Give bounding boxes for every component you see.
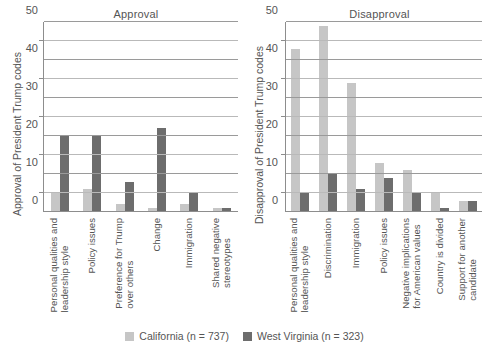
x-label-group: Country is divided xyxy=(425,214,453,320)
bar-west-virginia xyxy=(328,174,337,212)
x-tick-label: Country is divided xyxy=(434,218,445,294)
gridline-minor xyxy=(44,116,238,117)
y-tick-label: 40 xyxy=(8,42,38,54)
panel-disapproval-x-labels: Personal qualities andleadership styleDi… xyxy=(285,214,481,320)
x-tick-label: Discrimination xyxy=(322,218,333,278)
y-tick-mark xyxy=(281,116,285,117)
x-label-group: Policy issues xyxy=(75,214,107,320)
bar-group xyxy=(76,22,108,212)
x-tick-label: Personal qualities andleadership style xyxy=(48,218,70,312)
gridline-major xyxy=(286,21,482,22)
chart-figure: Approval Approval of President Trump cod… xyxy=(0,0,489,351)
x-label-group: Discrimination xyxy=(313,214,341,320)
bar-west-virginia xyxy=(125,182,134,212)
x-label-group: Policy issues xyxy=(369,214,397,320)
gridline-minor xyxy=(44,154,238,155)
gridline-minor xyxy=(286,154,482,155)
bar-group xyxy=(454,22,482,212)
y-tick-mark xyxy=(281,192,285,193)
bar-group xyxy=(314,22,342,212)
y-tick-label: 50 xyxy=(8,4,38,16)
bar-group xyxy=(141,22,173,212)
x-tick-label: Personal qualities andleadership style xyxy=(288,218,310,312)
y-tick-mark xyxy=(39,192,43,193)
panel-approval-plot-area: 01020304050 xyxy=(43,22,238,212)
gridline-major xyxy=(44,59,238,60)
gridline-major xyxy=(286,211,482,212)
legend-swatch xyxy=(243,332,252,341)
gridline-major xyxy=(44,135,238,136)
bar-west-virginia xyxy=(189,193,198,212)
legend-item: West Virginia (n = 323) xyxy=(243,330,364,342)
x-tick-label: Support for anothercandidate xyxy=(456,218,478,301)
y-tick-mark xyxy=(39,78,43,79)
y-tick-label: 30 xyxy=(8,80,38,92)
x-tick-label: Immigration xyxy=(350,218,361,268)
gridline-major xyxy=(44,173,238,174)
panel-disapproval-bars xyxy=(286,22,482,212)
panel-approval-y-axis-title: Approval of President Trump codes xyxy=(11,52,23,216)
y-tick-label: 0 xyxy=(248,194,278,206)
bar-west-virginia xyxy=(60,136,69,212)
bar-california xyxy=(51,193,60,212)
x-label-group: Preference for Trumpover others xyxy=(108,214,140,320)
bar-west-virginia xyxy=(157,128,166,212)
gridline-major xyxy=(286,173,482,174)
x-tick-label: Immigration xyxy=(183,218,194,268)
x-tick-label: Negative implicationsfor American values xyxy=(400,218,422,309)
x-tick-label: Shared negativestereotypes xyxy=(210,218,232,288)
y-tick-label: 30 xyxy=(248,80,278,92)
legend-item: California (n = 737) xyxy=(125,330,229,342)
bar-california xyxy=(431,193,440,212)
x-label-group: Personal qualities andleadership style xyxy=(285,214,313,320)
y-tick-mark xyxy=(281,154,285,155)
y-tick-mark xyxy=(281,78,285,79)
bar-group xyxy=(398,22,426,212)
panel-approval-x-labels: Personal qualities andleadership stylePo… xyxy=(43,214,237,320)
gridline-minor xyxy=(44,78,238,79)
bar-group xyxy=(286,22,314,212)
panel-disapproval-title: Disapproval xyxy=(244,8,489,20)
bar-california xyxy=(291,49,300,212)
x-label-group: Negative implicationsfor American values xyxy=(397,214,425,320)
y-tick-label: 10 xyxy=(8,156,38,168)
bar-west-virginia xyxy=(300,193,309,212)
panel-approval: Approval Approval of President Trump cod… xyxy=(0,0,244,322)
gridline-major xyxy=(44,211,238,212)
chart-legend: California (n = 737)West Virginia (n = 3… xyxy=(0,330,489,342)
x-tick-label: Policy issues xyxy=(378,218,389,273)
panel-approval-bars xyxy=(44,22,238,212)
bar-west-virginia xyxy=(92,136,101,212)
bar-west-virginia xyxy=(384,178,393,212)
gridline-minor xyxy=(44,40,238,41)
gridline-major xyxy=(286,59,482,60)
y-tick-label: 20 xyxy=(248,118,278,130)
y-tick-mark xyxy=(39,116,43,117)
x-tick-label: Change xyxy=(151,218,162,252)
gridline-minor xyxy=(286,78,482,79)
gridline-major xyxy=(286,97,482,98)
gridline-minor xyxy=(286,192,482,193)
x-tick-label: Policy issues xyxy=(86,218,97,273)
gridline-major xyxy=(44,97,238,98)
y-tick-mark xyxy=(39,154,43,155)
x-label-group: Immigration xyxy=(341,214,369,320)
legend-label: California (n = 737) xyxy=(139,330,229,342)
bar-group xyxy=(109,22,141,212)
bar-california xyxy=(319,26,328,212)
x-label-group: Personal qualities andleadership style xyxy=(43,214,75,320)
y-tick-label: 10 xyxy=(248,156,278,168)
legend-swatch xyxy=(125,332,134,341)
gridline-minor xyxy=(44,192,238,193)
bar-group xyxy=(173,22,205,212)
bar-west-virginia xyxy=(412,193,421,212)
bar-group xyxy=(370,22,398,212)
y-tick-label: 40 xyxy=(248,42,278,54)
y-tick-mark xyxy=(39,40,43,41)
gridline-major xyxy=(44,21,238,22)
gridline-minor xyxy=(286,40,482,41)
y-tick-label: 50 xyxy=(248,4,278,16)
bar-group xyxy=(206,22,238,212)
panel-disapproval: Disapproval Disapproval of President Tru… xyxy=(244,0,489,322)
panel-disapproval-plot-area: 01020304050 xyxy=(285,22,482,212)
